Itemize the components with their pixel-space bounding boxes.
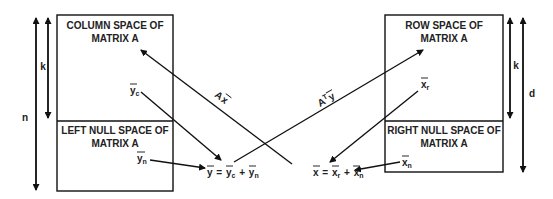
aty-label: ATy bbox=[315, 89, 337, 109]
right-null-space-title-line1: RIGHT NULL SPACE OF bbox=[387, 125, 501, 136]
column-space-title-line2: MATRIX A bbox=[91, 33, 138, 44]
right-d-label: d bbox=[529, 88, 535, 99]
left-dimension-arrows: k n bbox=[20, 18, 48, 190]
mapping-arrows bbox=[141, 50, 423, 170]
right-dimension-arrows: k d bbox=[510, 18, 535, 172]
right-box: ROW SPACE OF MATRIX A RIGHT NULL SPACE O… bbox=[385, 15, 503, 172]
svg-text:ATy: ATy bbox=[315, 89, 337, 109]
ax-label: Ax bbox=[213, 89, 232, 107]
y-decomposition-equation: y = yc + yn bbox=[207, 166, 259, 180]
left-null-space-title-line2: MATRIX A bbox=[91, 138, 138, 149]
linear-algebra-subspaces-diagram: COLUMN SPACE OF MATRIX A LEFT NULL SPACE… bbox=[0, 0, 553, 199]
row-space-title-line1: ROW SPACE OF bbox=[405, 20, 483, 31]
right-k-label: k bbox=[513, 60, 519, 71]
row-space-title-line2: MATRIX A bbox=[420, 33, 467, 44]
svg-text:x = xr +: x = xr + xn bbox=[313, 167, 364, 180]
left-k-label: k bbox=[40, 61, 46, 72]
left-n-label: n bbox=[22, 112, 28, 123]
left-null-space-title-line1: LEFT NULL SPACE OF bbox=[61, 125, 168, 136]
column-space-title-line1: COLUMN SPACE OF bbox=[66, 20, 163, 31]
x-decomposition-equation: x = xr + xn bbox=[313, 166, 364, 180]
left-box: COLUMN SPACE OF MATRIX A LEFT NULL SPACE… bbox=[57, 15, 173, 191]
svg-text:y = yc +: y = yc + yn bbox=[207, 167, 259, 180]
right-null-space-title-line2: MATRIX A bbox=[420, 138, 467, 149]
svg-text:Ax: Ax bbox=[213, 89, 231, 106]
